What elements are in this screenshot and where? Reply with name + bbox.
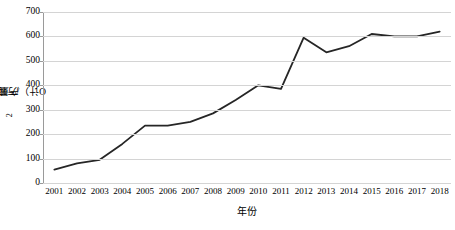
x-axis-tick-label: 2011 (272, 186, 290, 197)
y-axis-tick-mark (39, 61, 43, 62)
data-series-line (43, 12, 451, 183)
y-axis-tick-mark (39, 159, 43, 160)
x-axis-tick-label: 2009 (227, 186, 245, 197)
x-axis-tick-label: 2015 (363, 186, 381, 197)
y-axis-tick-label: 600 (14, 32, 40, 42)
y-axis-tick-label: 300 (14, 105, 40, 115)
y-axis-tick-label: 700 (14, 7, 40, 17)
plot-area (43, 12, 451, 183)
x-axis-tick-label: 2017 (408, 186, 426, 197)
y-axis-tick-mark (39, 85, 43, 86)
y-axis-tick-label: 200 (14, 129, 40, 139)
x-axis-tick-label: 2012 (295, 186, 313, 197)
x-axis-tick-label: 2018 (431, 186, 449, 197)
x-axis-tick-label: 2005 (136, 186, 154, 197)
gridline (43, 61, 451, 62)
y-axis-tick-label: 100 (14, 154, 40, 164)
y-axis-tick-mark (39, 134, 43, 135)
line-chart: 产量（以K2O计）/万吨 0100200300400500600700 2001… (0, 0, 455, 230)
gridline (43, 134, 451, 135)
gridline (43, 85, 451, 86)
x-axis-tick-label: 2002 (68, 186, 86, 197)
x-axis-tick-label: 2013 (317, 186, 335, 197)
y-axis-tick-label: 400 (14, 81, 40, 91)
x-axis-tick-label: 2010 (249, 186, 267, 197)
series-polyline (54, 32, 439, 170)
x-axis-tick-label: 2006 (159, 186, 177, 197)
x-axis-tick-label: 2008 (204, 186, 222, 197)
gridline (43, 36, 451, 37)
gridline (43, 183, 451, 184)
y-axis-tick-mark (39, 36, 43, 37)
y-axis-tick-labels: 0100200300400500600700 (14, 0, 40, 230)
x-axis-tick-label: 2004 (113, 186, 131, 197)
x-axis-tick-label: 2007 (181, 186, 199, 197)
x-axis-tick-labels: 2001200220032004200520062007200820092010… (43, 186, 451, 200)
y-axis-tick-mark (39, 183, 43, 184)
x-axis-tick-label: 2016 (385, 186, 403, 197)
y-axis-tick-label: 500 (14, 56, 40, 66)
gridline (43, 159, 451, 160)
x-axis-tick-label: 2003 (91, 186, 109, 197)
gridline (43, 12, 451, 13)
x-axis-title: 年份 (43, 203, 451, 218)
x-axis-tick-label: 2001 (45, 186, 63, 197)
y-axis-tick-mark (39, 12, 43, 13)
y-axis-tick-mark (39, 110, 43, 111)
y-axis-tick-label: 0 (14, 178, 40, 188)
x-axis-tick-label: 2014 (340, 186, 358, 197)
gridline (43, 110, 451, 111)
